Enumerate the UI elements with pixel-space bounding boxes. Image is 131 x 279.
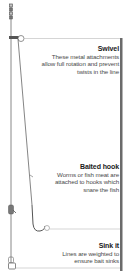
callout-baited-hook: Baited hook Worms or fish meat are attac… bbox=[49, 163, 119, 193]
line-clip-icon bbox=[9, 205, 17, 214]
callout-title: Swivel bbox=[41, 45, 119, 53]
callout-title: Baited hook bbox=[49, 163, 119, 171]
fishing-rig-diagram: Swivel These metal attachments allow ful… bbox=[0, 0, 131, 279]
hook-icon bbox=[32, 205, 45, 231]
callout-sink-it: Sink it Lines are weighted to ensure bai… bbox=[47, 242, 119, 265]
callout-title: Sink it bbox=[47, 242, 119, 250]
hook-snood-line bbox=[18, 39, 32, 205]
accent-bar bbox=[120, 38, 123, 271]
callout-description: These metal attachments allow full rotat… bbox=[41, 53, 119, 75]
callout-description: Worms or fish meat are attached to hooks… bbox=[49, 171, 119, 193]
sinker-weight-icon bbox=[9, 257, 16, 269]
hook-eye-icon bbox=[45, 226, 50, 231]
snood-knot bbox=[30, 175, 33, 177]
callout-description: Lines are weighted to ensure bait sinks bbox=[47, 250, 119, 265]
callout-swivel: Swivel These metal attachments allow ful… bbox=[41, 45, 119, 75]
rig-illustration bbox=[0, 0, 131, 279]
